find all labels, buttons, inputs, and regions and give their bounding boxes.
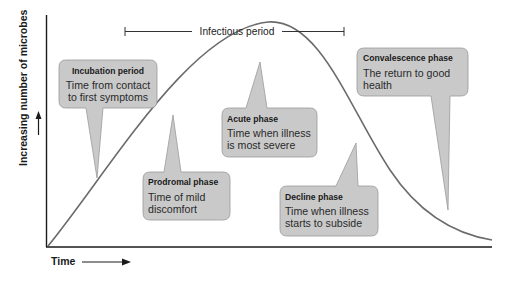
disease-phases-diagram: Increasing number of microbes Time Infec…	[0, 0, 513, 281]
callout-title: Acute phase	[227, 114, 278, 124]
callout-title: Decline phase	[285, 192, 343, 202]
up-arrow-icon	[36, 111, 42, 135]
x-axis-label: Time	[51, 255, 75, 267]
callout-text: Time of mild	[148, 191, 205, 203]
right-arrow-icon	[82, 259, 131, 266]
callout-text: starts to subside	[285, 217, 362, 229]
callout-text: Time when illness	[285, 205, 369, 217]
callout-text: is most severe	[227, 139, 295, 151]
callout-title: Convalescence phase	[363, 53, 453, 63]
callout-text: Time when illness	[227, 127, 311, 139]
callout-text: to first symptoms	[68, 91, 148, 103]
callout-text: Time from contact	[66, 79, 150, 91]
infectious-period-label: Infectious period	[200, 26, 275, 37]
infectious-period-bar: Infectious period	[125, 26, 344, 37]
callout-title: Incubation period	[72, 66, 144, 76]
callout-incubation: Incubation period Time from contact to f…	[59, 60, 157, 178]
y-axis-label: Increasing number of microbes	[17, 9, 29, 166]
callout-prodromal: Prodromal phase Time of mild discomfort	[143, 115, 230, 220]
callout-text: discomfort	[148, 203, 197, 215]
callout-convalescence: Convalescence phase The return to good h…	[357, 48, 468, 210]
callout-acute: Acute phase Time when illness is most se…	[222, 62, 317, 157]
callout-text: health	[363, 79, 392, 91]
callout-text: The return to good	[363, 67, 450, 79]
callout-title: Prodromal phase	[148, 177, 218, 187]
